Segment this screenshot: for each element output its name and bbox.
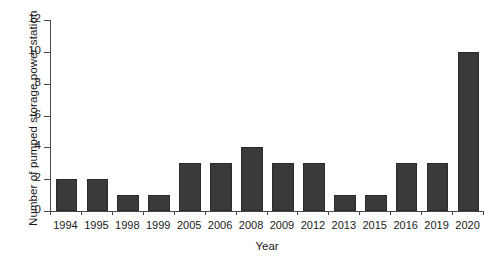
y-tick-mark [44,147,50,148]
bar-1999 [148,195,170,211]
x-tick-label-2013: 2013 [328,219,359,231]
x-tick-mark [205,211,206,215]
bar-slot [51,20,82,211]
x-tick-label-2009: 2009 [267,219,298,231]
x-tick-label-2012: 2012 [297,219,328,231]
x-tick-mark [50,211,51,215]
x-tick-label-2015: 2015 [359,219,390,231]
bar-2019 [427,163,449,211]
x-tick-mark [81,211,82,215]
bar-slot [144,20,175,211]
x-tick-mark [421,211,422,215]
bar-slot [237,20,268,211]
y-tick-mark [44,20,50,21]
bar-1995 [87,179,109,211]
x-tick-mark [452,211,453,215]
bar-1998 [117,195,139,211]
x-tick-mark [112,211,113,215]
bar-slot [206,20,237,211]
bar-2016 [396,163,418,211]
bar-slot [268,20,299,211]
y-axis-title-container: Number of pumped storage power station [0,8,26,218]
y-tick-label: 0 [35,203,41,215]
y-tick-mark [44,84,50,85]
bar-slot [422,20,453,211]
x-tick-label-2016: 2016 [390,219,421,231]
x-tick-mark [328,211,329,215]
bar-2008 [241,147,263,211]
x-tick-mark [297,211,298,215]
x-tick-mark [236,211,237,215]
x-tick-mark [267,211,268,215]
bar-slot [298,20,329,211]
bar-slot [453,20,484,211]
y-tick-label: 4 [35,139,41,151]
bar-2006 [210,163,232,211]
bar-2015 [365,195,387,211]
bar-2012 [303,163,325,211]
y-tick-mark [44,179,50,180]
x-tick-mark [174,211,175,215]
x-tick-label-1998: 1998 [112,219,143,231]
y-tick-label: 10 [28,44,41,56]
y-tick-label: 2 [35,171,41,183]
bar-slot [360,20,391,211]
y-tick-mark [44,116,50,117]
x-tick-label-2006: 2006 [205,219,236,231]
x-tick-label-1999: 1999 [143,219,174,231]
bar-1994 [56,179,78,211]
x-tick-mark [390,211,391,215]
x-tick-label-2005: 2005 [174,219,205,231]
bar-2020 [458,52,480,211]
y-tick-label: 12 [28,12,41,24]
x-tick-mark [143,211,144,215]
bar-slot [82,20,113,211]
plot-area: 024681012 199419951998199920052006200820… [50,20,484,211]
y-tick-label: 6 [35,108,41,120]
bar-2005 [179,163,201,211]
bar-slot [113,20,144,211]
x-axis-title: Year [50,240,484,252]
bar-slot [329,20,360,211]
bar-chart-figure: Number of pumped storage power station 0… [0,0,492,267]
x-tick-label-2019: 2019 [421,219,452,231]
x-tick-mark [483,211,484,215]
x-tick-label-2008: 2008 [236,219,267,231]
bar-series [51,20,484,211]
x-tick-label-1995: 1995 [81,219,112,231]
bar-2013 [334,195,356,211]
y-tick-label: 8 [35,76,41,88]
x-tick-label-1994: 1994 [50,219,81,231]
bar-slot [175,20,206,211]
bar-slot [391,20,422,211]
x-tick-label-2020: 2020 [452,219,483,231]
y-tick-mark [44,52,50,53]
bar-2009 [272,163,294,211]
x-tick-mark [359,211,360,215]
